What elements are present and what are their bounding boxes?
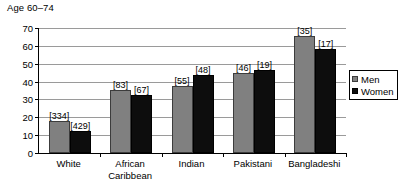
y-tick-label: 0 [28, 148, 33, 159]
y-tick-label: 10 [22, 130, 33, 141]
y-tick-label: 20 [22, 112, 33, 123]
bar-value-label: [35] [297, 27, 312, 36]
bar-women: [429] [70, 131, 91, 153]
y-tick-label: 30 [22, 94, 33, 105]
y-tick-label: 60 [22, 40, 33, 51]
bar-value-label: [19] [257, 61, 272, 70]
chart-title: Age 60–74 [7, 2, 54, 13]
y-tick-mark [35, 28, 39, 29]
x-tick-mark [285, 153, 286, 157]
bar-value-label: [67] [134, 86, 149, 95]
bar-value-label: [334] [49, 112, 69, 121]
y-tick-label: 40 [22, 76, 33, 87]
legend-label: Women [361, 86, 394, 97]
bar-group: [46][19] [233, 28, 275, 153]
bar-women: [17] [315, 49, 336, 153]
x-axis-label: Pakistani [222, 158, 283, 170]
bar-men: [46] [233, 73, 254, 153]
bar-women: [67] [131, 95, 152, 153]
bar-men: [334] [49, 121, 70, 153]
plot-area: 010203040506070 [334][429][83][67][55][4… [38, 28, 346, 154]
bar-value-label: [83] [113, 81, 128, 90]
y-tick-mark [35, 99, 39, 100]
bar-group: [83][67] [110, 28, 152, 153]
x-axis-label: African Caribbean [99, 158, 160, 181]
y-tick-label: 70 [22, 23, 33, 34]
legend-item-men: Men [352, 73, 394, 85]
bar-men: [35] [294, 36, 315, 153]
bar-group: [334][429] [49, 28, 91, 153]
bar-women: [48] [193, 75, 214, 153]
bar-value-label: [17] [318, 40, 333, 49]
bar-value-label: [429] [70, 122, 90, 131]
bar-value-label: [48] [195, 66, 210, 75]
x-axis-label: Indian [161, 158, 222, 170]
legend-item-women: Women [352, 85, 394, 97]
x-axis-label: White [38, 158, 99, 170]
x-tick-mark [162, 153, 163, 157]
chart-legend: MenWomen [349, 70, 398, 100]
x-tick-mark [223, 153, 224, 157]
x-tick-mark [346, 153, 347, 157]
bar-value-label: [46] [236, 64, 251, 73]
legend-label: Men [361, 74, 379, 85]
x-tick-mark [100, 153, 101, 157]
legend-swatch-women [352, 88, 358, 94]
bar-men: [83] [110, 90, 131, 153]
y-tick-mark [35, 64, 39, 65]
y-tick-mark [35, 46, 39, 47]
legend-swatch-men [352, 76, 358, 82]
bar-women: [19] [254, 70, 275, 153]
bar-chart: Age 60–74 010203040506070 [334][429][83]… [0, 0, 413, 193]
y-tick-mark [35, 135, 39, 136]
y-tick-mark [35, 82, 39, 83]
bar-men: [55] [172, 86, 193, 153]
bar-group: [35][17] [294, 28, 336, 153]
bar-value-label: [55] [174, 77, 189, 86]
bar-group: [55][48] [172, 28, 214, 153]
y-tick-mark [35, 153, 39, 154]
y-tick-mark [35, 117, 39, 118]
y-tick-label: 50 [22, 58, 33, 69]
x-axis-label: Bangladeshi [284, 158, 345, 170]
